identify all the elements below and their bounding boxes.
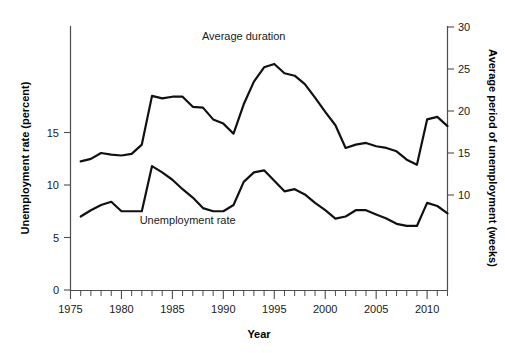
x-tick-label-1980: 1980 — [109, 303, 133, 315]
left-tick-label-10: 10 — [47, 179, 59, 191]
x-tick-label-2000: 2000 — [313, 303, 337, 315]
right-tick-label-15: 15 — [458, 147, 470, 159]
series-label-unemployment-rate: Unemployment rate — [140, 214, 236, 226]
series-label-average-duration: Average duration — [202, 30, 286, 42]
right-tick-label-10: 10 — [458, 189, 470, 201]
chart-background — [0, 0, 505, 353]
right-tick-label-25: 25 — [458, 63, 470, 75]
chart-figure: 15 10 5 0 30 25 20 15 10 197519801985199… — [0, 0, 505, 353]
right-tick-label-30: 30 — [458, 21, 470, 33]
x-tick-label-2005: 2005 — [364, 303, 388, 315]
left-axis-title: Unemployment rate (percent) — [19, 81, 31, 234]
x-tick-label-2010: 2010 — [415, 303, 439, 315]
right-axis-title: Average period of unemployment (weeks) — [487, 49, 499, 267]
left-tick-label-5: 5 — [53, 232, 59, 244]
x-tick-label-1985: 1985 — [160, 303, 184, 315]
x-axis-title: Year — [247, 328, 271, 340]
left-tick-label-0: 0 — [53, 284, 59, 296]
x-tick-label-1995: 1995 — [262, 303, 286, 315]
x-tick-label-1975: 1975 — [58, 303, 82, 315]
right-tick-label-20: 20 — [458, 105, 470, 117]
left-tick-label-15: 15 — [47, 127, 59, 139]
x-tick-label-1990: 1990 — [211, 303, 235, 315]
